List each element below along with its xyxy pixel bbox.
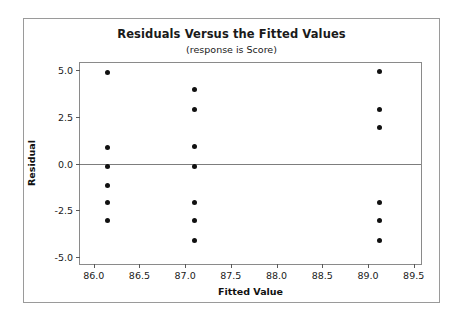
x-tick-label: 88.5: [312, 270, 333, 281]
y-tick-label: 2.5: [58, 111, 73, 122]
data-point: [192, 144, 197, 149]
chart-title: Residuals Versus the Fitted Values: [23, 27, 440, 41]
x-tick-label: 88.0: [266, 270, 287, 281]
data-point: [192, 238, 197, 243]
x-tick-mark: [322, 264, 323, 268]
x-tick-label: 87.5: [220, 270, 241, 281]
data-point: [377, 200, 382, 205]
data-point: [192, 107, 197, 112]
x-tick-mark: [94, 264, 95, 268]
y-tick-label: -2.5: [54, 205, 73, 216]
data-point: [377, 125, 382, 130]
data-point: [377, 238, 382, 243]
plot-area: 5.02.50.0-2.5-5.0 86.086.587.087.588.088…: [79, 62, 422, 265]
data-point: [377, 218, 382, 223]
x-tick-label: 89.0: [357, 270, 378, 281]
data-point: [192, 200, 197, 205]
x-tick-mark: [277, 264, 278, 268]
y-tick-mark: [76, 70, 80, 71]
data-point: [192, 218, 197, 223]
x-axis-title: Fitted Value: [79, 286, 422, 297]
zero-reference-line: [80, 164, 421, 165]
data-point: [377, 107, 382, 112]
x-tick-label: 86.5: [129, 270, 150, 281]
y-tick-mark: [76, 257, 80, 258]
chart-subtitle: (response is Score): [23, 44, 440, 55]
data-point: [377, 69, 382, 74]
x-tick-label: 87.0: [175, 270, 196, 281]
x-tick-mark: [139, 264, 140, 268]
x-tick-label: 89.5: [403, 270, 424, 281]
y-tick-label: -5.0: [54, 252, 73, 263]
data-point: [192, 164, 197, 169]
residual-plot-figure: Residuals Versus the Fitted Values (resp…: [0, 0, 463, 319]
x-tick-mark: [368, 264, 369, 268]
y-axis-title: Residual: [26, 140, 37, 186]
y-tick-label: 5.0: [58, 64, 73, 75]
data-point: [192, 87, 197, 92]
data-point: [105, 183, 110, 188]
x-tick-label: 86.0: [83, 270, 104, 281]
y-tick-label: 0.0: [58, 158, 73, 169]
x-tick-mark: [185, 264, 186, 268]
data-point: [105, 218, 110, 223]
data-point: [105, 200, 110, 205]
x-tick-mark: [414, 264, 415, 268]
data-point: [105, 70, 110, 75]
y-tick-mark: [76, 117, 80, 118]
data-point: [105, 145, 110, 150]
data-point: [105, 164, 110, 169]
y-tick-mark: [76, 210, 80, 211]
x-tick-mark: [231, 264, 232, 268]
